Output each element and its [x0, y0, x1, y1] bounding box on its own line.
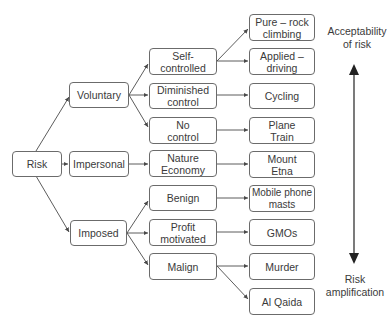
node-benign: Benign	[149, 185, 217, 211]
node-plane-train: Plane Train	[249, 117, 315, 144]
node-murder: Murder	[249, 253, 315, 280]
node-no-control: No control	[149, 117, 217, 144]
node-impersonal: Impersonal	[69, 151, 129, 177]
node-malign: Malign	[149, 253, 217, 280]
node-imposed: Imposed	[70, 220, 127, 246]
node-cycling: Cycling	[249, 83, 315, 109]
risk-amplification-label: Risk amplification	[320, 273, 390, 299]
node-gmos: GMOs	[249, 219, 315, 246]
node-nature-economy: Nature Economy	[149, 150, 217, 177]
node-pure-rock-climbing: Pure – rock climbing	[249, 14, 315, 41]
node-risk: Risk	[12, 151, 62, 177]
acceptability-of-risk-label: Acceptability of risk	[322, 25, 392, 51]
node-self-controlled: Self- controlled	[149, 48, 217, 75]
node-profit-motivated: Profit motivated	[149, 219, 217, 246]
node-voluntary: Voluntary	[69, 82, 129, 108]
node-applied-driving: Applied – driving	[249, 48, 315, 75]
node-mount-etna: Mount Etna	[249, 151, 315, 178]
node-mobile-phone-masts: Mobile phone masts	[249, 185, 315, 212]
node-diminished-control: Diminished control	[149, 83, 217, 109]
node-al-qaida: Al Qaida	[249, 288, 315, 315]
risk-tree-diagram: Risk Voluntary Impersonal Imposed Self- …	[0, 0, 392, 326]
scale-arrow	[349, 64, 359, 264]
